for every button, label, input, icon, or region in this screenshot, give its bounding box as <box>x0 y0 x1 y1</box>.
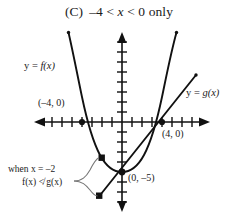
point-0-neg5 <box>119 169 126 176</box>
annotation-arg-g: (x) <box>51 177 62 187</box>
coordinate-plane-figure <box>0 0 238 222</box>
label-curve-g: y = g(x) <box>186 87 219 99</box>
annotation-line1-pre: when <box>8 164 31 174</box>
annotation-line1-post: = –2 <box>36 164 56 174</box>
annotation-arg-f: (x) <box>25 177 36 187</box>
label-x-intercept-left: (–4, 0) <box>38 97 65 109</box>
annotation-line2: f(x) ≮ g(x) <box>8 176 62 189</box>
label-curve-g-prefix: y = <box>186 87 202 98</box>
point-4-0 <box>159 119 165 125</box>
curve-f-left-endpoint <box>67 31 70 34</box>
label-curve-g-arg: (x) <box>208 87 220 98</box>
annotation-line1: when x = –2 <box>8 164 55 174</box>
x-axis-right-arrow <box>199 118 210 127</box>
annotation-relation: ≮ <box>36 177 46 187</box>
label-curve-f-arg: (x) <box>43 60 55 71</box>
annotation-text: when x = –2 f(x) ≮ g(x) <box>8 163 62 189</box>
curve-g-upper-endpoint <box>194 73 197 76</box>
label-curve-f-prefix: y = <box>24 60 40 71</box>
x-axis-left-arrow <box>34 118 45 127</box>
marked-point-on-f <box>99 155 105 161</box>
label-y-intercept: (0, –5) <box>128 172 155 184</box>
annotation-pointer <box>74 158 99 197</box>
point-neg4-0 <box>79 119 85 125</box>
label-x-intercept-right: (4, 0) <box>162 128 184 140</box>
curve-f-right-endpoint <box>175 31 178 34</box>
label-curve-f: y = f(x) <box>24 60 55 72</box>
